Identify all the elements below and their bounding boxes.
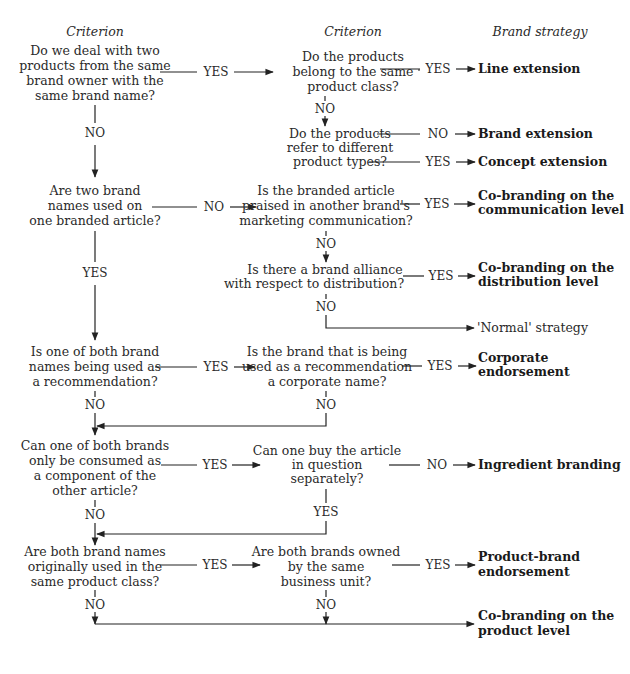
svg-text:products from the same: products from the same bbox=[19, 58, 170, 73]
strategy-co-branding-communication: Co-branding on the communication level bbox=[478, 188, 624, 217]
svg-text:by the same: by the same bbox=[288, 559, 365, 574]
no-label: NO bbox=[428, 127, 449, 141]
no-label: NO bbox=[85, 508, 106, 522]
criterion-m3: Is the branded article praised in anothe… bbox=[239, 183, 413, 228]
header-criterion-2: Criterion bbox=[324, 24, 382, 39]
svg-text:product class?: product class? bbox=[307, 79, 399, 94]
no-label: NO bbox=[316, 598, 337, 612]
svg-text:endorsement: endorsement bbox=[478, 564, 570, 579]
strategy-co-branding-distribution: Co-branding on the distribution level bbox=[478, 260, 614, 289]
criterion-q3: Is one of both brand names being used as… bbox=[29, 344, 161, 389]
yes-label: YES bbox=[202, 458, 228, 472]
svg-text:Do we deal with two: Do we deal with two bbox=[30, 43, 159, 58]
svg-text:brand owner with the: brand owner with the bbox=[26, 73, 163, 88]
svg-text:marketing communication?: marketing communication? bbox=[239, 213, 413, 228]
svg-text:endorsement: endorsement bbox=[478, 364, 570, 379]
svg-text:Are both brand names: Are both brand names bbox=[23, 544, 166, 559]
svg-text:one branded article?: one branded article? bbox=[29, 213, 161, 228]
criterion-q5: Are both brand names originally used in … bbox=[23, 544, 166, 589]
svg-text:Product-brand: Product-brand bbox=[478, 549, 580, 564]
criterion-q1: Do we deal with two products from the sa… bbox=[19, 43, 170, 103]
svg-text:a recommendation?: a recommendation? bbox=[32, 374, 158, 389]
yes-label: YES bbox=[82, 266, 108, 280]
criterion-m6: Can one buy the article in question sepa… bbox=[253, 443, 401, 486]
svg-text:Are both brands owned: Are both brands owned bbox=[251, 544, 401, 559]
brand-strategy-flowchart: Criterion Criterion Brand strategy Do we… bbox=[0, 0, 630, 674]
yes-label: YES bbox=[202, 558, 228, 572]
criterion-m1: Do the products belong to the same produ… bbox=[292, 49, 413, 94]
svg-text:same product class?: same product class? bbox=[31, 574, 160, 589]
criterion-q4: Can one of both brands only be consumed … bbox=[21, 438, 170, 498]
no-label: NO bbox=[316, 398, 337, 412]
svg-text:praised in another brand's: praised in another brand's bbox=[242, 198, 410, 213]
yes-label: YES bbox=[203, 360, 229, 374]
svg-text:other article?: other article? bbox=[52, 483, 138, 498]
svg-text:a corporate name?: a corporate name? bbox=[268, 374, 387, 389]
criterion-m4: Is there a brand alliance with respect t… bbox=[224, 262, 405, 291]
no-label: NO bbox=[85, 126, 106, 140]
strategy-line-extension: Line extension bbox=[478, 61, 580, 76]
svg-text:names being used as: names being used as bbox=[29, 359, 161, 374]
svg-text:Co-branding on the: Co-branding on the bbox=[478, 260, 614, 275]
yes-label: YES bbox=[313, 505, 339, 519]
header-criterion-1: Criterion bbox=[66, 24, 124, 39]
svg-text:with respect to distribution?: with respect to distribution? bbox=[224, 276, 405, 291]
svg-text:Is the branded article: Is the branded article bbox=[257, 183, 394, 198]
no-label: NO bbox=[315, 102, 336, 116]
svg-text:distribution level: distribution level bbox=[478, 274, 599, 289]
yes-label: YES bbox=[425, 62, 451, 76]
yes-label: YES bbox=[427, 359, 453, 373]
svg-text:Can one of both brands: Can one of both brands bbox=[21, 438, 170, 453]
svg-text:used as a recommendation: used as a recommendation bbox=[242, 359, 412, 374]
svg-text:Can one buy the article: Can one buy the article bbox=[253, 443, 401, 458]
svg-text:in question: in question bbox=[292, 457, 362, 472]
yes-label: YES bbox=[203, 65, 229, 79]
svg-text:Do the products: Do the products bbox=[289, 126, 391, 141]
yes-label: YES bbox=[424, 197, 450, 211]
svg-text:business unit?: business unit? bbox=[281, 574, 372, 589]
strategy-normal: 'Normal' strategy bbox=[477, 320, 589, 335]
no-label: NO bbox=[85, 398, 106, 412]
svg-text:Is one of both brand: Is one of both brand bbox=[31, 344, 159, 359]
svg-text:names used on: names used on bbox=[48, 198, 143, 213]
criterion-m7: Are both brands owned by the same busine… bbox=[251, 544, 401, 589]
strategy-ingredient-branding: Ingredient branding bbox=[478, 457, 621, 472]
svg-text:refer to different: refer to different bbox=[287, 140, 394, 155]
no-label: NO bbox=[427, 458, 448, 472]
svg-text:communication level: communication level bbox=[478, 202, 624, 217]
svg-text:Is the brand that is being: Is the brand that is being bbox=[247, 344, 408, 359]
svg-text:Co-branding on the: Co-branding on the bbox=[478, 188, 614, 203]
no-label: NO bbox=[204, 200, 225, 214]
yes-label: YES bbox=[425, 155, 451, 169]
svg-text:Is there a brand alliance: Is there a brand alliance bbox=[247, 262, 402, 277]
svg-text:originally used in the: originally used in the bbox=[28, 559, 162, 574]
header-brand-strategy: Brand strategy bbox=[492, 24, 589, 39]
svg-text:product level: product level bbox=[478, 623, 570, 638]
no-label: NO bbox=[316, 237, 337, 251]
svg-text:Do the products: Do the products bbox=[302, 49, 404, 64]
strategy-co-branding-product: Co-branding on the product level bbox=[478, 608, 614, 638]
svg-text:Co-branding on the: Co-branding on the bbox=[478, 608, 614, 623]
strategy-corporate-endorsement: Corporate endorsement bbox=[478, 350, 570, 379]
strategy-concept-extension: Concept extension bbox=[478, 154, 607, 169]
yes-label: YES bbox=[428, 269, 454, 283]
criterion-m5: Is the brand that is being used as a rec… bbox=[242, 344, 412, 389]
svg-text:a component of the: a component of the bbox=[34, 468, 156, 483]
svg-text:belong to the same: belong to the same bbox=[292, 64, 413, 79]
svg-text:Corporate: Corporate bbox=[478, 350, 548, 365]
no-label: NO bbox=[85, 598, 106, 612]
strategy-product-brand-endorsement: Product-brand endorsement bbox=[478, 549, 580, 579]
no-label: NO bbox=[316, 300, 337, 314]
yes-label: YES bbox=[425, 558, 451, 572]
strategy-brand-extension: Brand extension bbox=[478, 126, 593, 141]
svg-text:same brand name?: same brand name? bbox=[35, 88, 155, 103]
svg-text:only be consumed as: only be consumed as bbox=[29, 453, 161, 468]
svg-text:Are two brand: Are two brand bbox=[48, 183, 140, 198]
criterion-q2: Are two brand names used on one branded … bbox=[29, 183, 161, 228]
svg-text:separately?: separately? bbox=[291, 471, 364, 486]
